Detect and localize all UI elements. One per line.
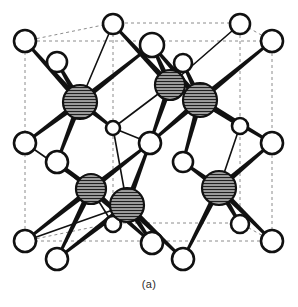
open-sphere-atom [106,121,120,135]
open-sphere-atom [139,132,161,154]
open-sphere-atom [47,52,67,72]
cell-edge [25,23,113,41]
open-sphere-atom [14,132,36,154]
hatched-sphere-atom [63,85,97,119]
open-sphere-atom [46,248,68,270]
open-sphere-atom [232,118,248,134]
open-sphere-atom [261,30,283,52]
open-sphere-atom [231,215,249,233]
figure-caption: (a) [0,278,298,290]
hatched-sphere-atom [202,171,236,205]
open-sphere-atom [103,14,123,34]
open-sphere-atom [261,132,283,154]
open-sphere-atom [46,151,68,173]
open-sphere-atom [261,230,283,252]
hatched-sphere-atom [76,174,106,204]
open-sphere-atom [14,30,36,52]
open-sphere-atom [174,54,192,72]
open-sphere-atom [172,248,194,270]
open-sphere-atom [230,14,250,34]
open-sphere-atom [140,33,164,57]
hatched-sphere-atom [155,70,185,100]
hatched-sphere-atom [110,188,144,222]
open-sphere-atom [14,230,36,252]
open-sphere-atom [173,152,193,172]
crystal-structure-diagram [0,0,298,307]
open-sphere-atom [141,232,163,254]
hatched-sphere-atom [183,83,217,117]
crystal-structure-figure: (a) [0,0,298,307]
